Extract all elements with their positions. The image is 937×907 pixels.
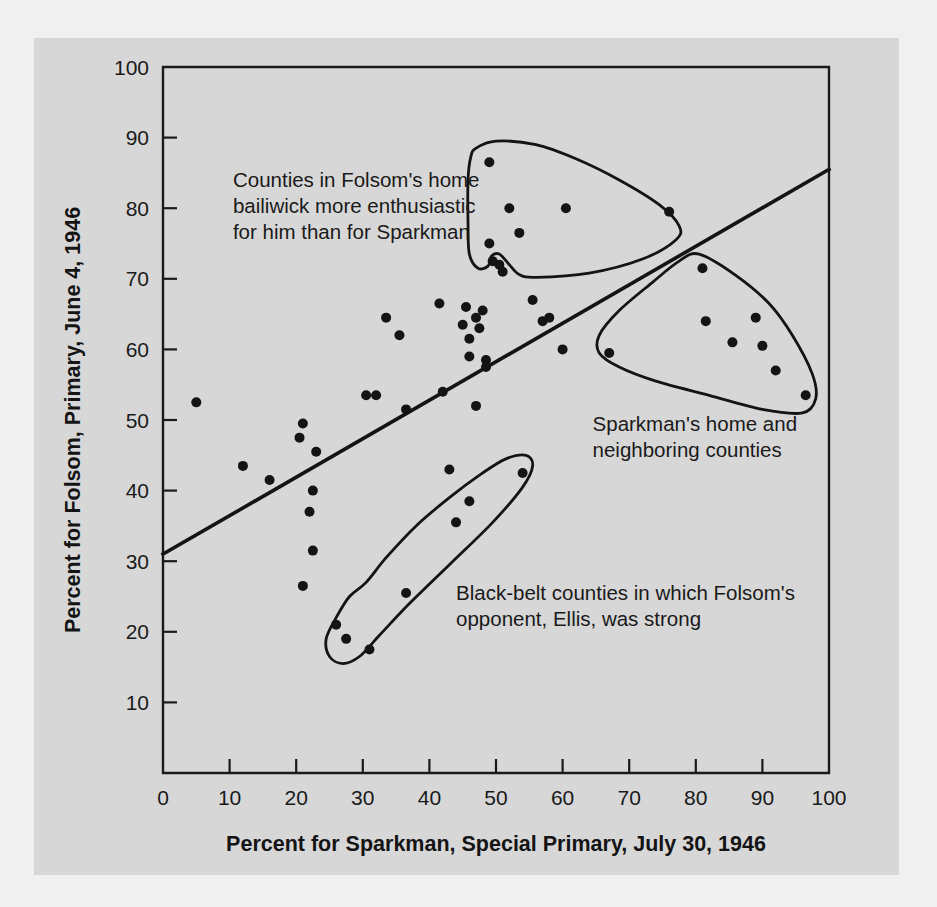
x-tick-label-100: 100 — [811, 786, 846, 809]
data-point — [308, 546, 318, 556]
data-point — [438, 387, 448, 397]
sparkman-home-outline — [597, 253, 817, 413]
y-tick-label-90: 90 — [126, 126, 149, 149]
data-point — [664, 207, 674, 217]
data-point — [528, 295, 538, 305]
data-point — [558, 344, 568, 354]
data-point — [484, 239, 494, 249]
data-point — [341, 634, 351, 644]
black-belt-outline — [326, 455, 533, 664]
y-tick-label-80: 80 — [126, 197, 149, 220]
x-tick-label-0: 0 — [157, 786, 169, 809]
data-point — [331, 620, 341, 630]
figure-root: 0102030405060708090100 10203040506070809… — [0, 0, 937, 907]
x-tick-label-10: 10 — [218, 786, 241, 809]
data-point — [238, 461, 248, 471]
y-tick-label-10: 10 — [126, 691, 149, 714]
y-axis-title: Percent for Folsom, Primary, June 4, 194… — [61, 207, 85, 633]
x-tick-label-50: 50 — [484, 786, 507, 809]
data-point — [298, 581, 308, 591]
x-tick-label-20: 20 — [285, 786, 308, 809]
data-point — [434, 299, 444, 309]
annotation-folsom-bailiwick: Counties in Folsom's homebailiwick more … — [233, 168, 480, 243]
data-point — [481, 362, 491, 372]
y-tick-label-30: 30 — [126, 550, 149, 573]
x-tick-label-90: 90 — [751, 786, 774, 809]
axis-titles: Percent for Sparkman, Special Primary, J… — [61, 207, 766, 856]
x-axis-ticks: 0102030405060708090100 — [157, 759, 846, 809]
data-point — [461, 302, 471, 312]
x-tick-label-30: 30 — [351, 786, 374, 809]
x-tick-label-60: 60 — [551, 786, 574, 809]
data-point — [394, 330, 404, 340]
data-point — [771, 366, 781, 376]
data-point — [265, 475, 275, 485]
data-point — [697, 263, 707, 273]
data-point — [305, 507, 315, 517]
data-point — [471, 401, 481, 411]
data-point — [544, 313, 554, 323]
data-point — [801, 390, 811, 400]
data-point — [458, 320, 468, 330]
data-point — [401, 588, 411, 598]
y-tick-label-100: 100 — [114, 56, 149, 79]
x-tick-label-40: 40 — [418, 786, 441, 809]
folsom-bailiwick-outline — [468, 141, 681, 277]
y-axis-ticks: 1020304050607080901000 — [114, 56, 177, 785]
x-tick-label-80: 80 — [684, 786, 707, 809]
data-point — [604, 348, 614, 358]
data-point — [474, 323, 484, 333]
data-point — [444, 464, 454, 474]
data-point — [401, 404, 411, 414]
annotation-sparkman-home: Sparkman's home andneighboring counties — [593, 412, 797, 461]
data-point — [498, 267, 508, 277]
data-point — [464, 496, 474, 506]
data-point — [484, 157, 494, 167]
data-point — [518, 468, 528, 478]
y-tick-label-50: 50 — [126, 409, 149, 432]
data-point — [364, 644, 374, 654]
data-point — [451, 517, 461, 527]
data-point — [311, 447, 321, 457]
data-point — [757, 341, 767, 351]
y-tick-label-60: 60 — [126, 338, 149, 361]
data-point — [514, 228, 524, 238]
data-point — [727, 337, 737, 347]
y-tick-label-20: 20 — [126, 620, 149, 643]
annotation-black-belt: Black-belt counties in which Folsom'sopp… — [456, 581, 795, 630]
x-axis-title: Percent for Sparkman, Special Primary, J… — [226, 832, 766, 856]
data-point — [295, 433, 305, 443]
data-point — [371, 390, 381, 400]
chart-panel: 0102030405060708090100 10203040506070809… — [34, 38, 899, 875]
y-tick-label-70: 70 — [126, 267, 149, 290]
scatter-chart: 0102030405060708090100 10203040506070809… — [34, 38, 899, 875]
data-point — [504, 203, 514, 213]
data-point — [464, 351, 474, 361]
data-point — [478, 306, 488, 316]
data-point — [701, 316, 711, 326]
data-point — [298, 419, 308, 429]
y-tick-label-40: 40 — [126, 479, 149, 502]
data-point — [751, 313, 761, 323]
data-point — [361, 390, 371, 400]
data-point — [191, 397, 201, 407]
data-point — [381, 313, 391, 323]
x-tick-label-70: 70 — [618, 786, 641, 809]
data-point — [561, 203, 571, 213]
data-point — [308, 486, 318, 496]
data-point — [464, 334, 474, 344]
